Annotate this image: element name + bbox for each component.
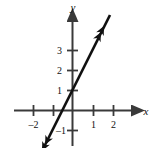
coordinate-plane-svg: –2 1 2 x 3 2 1 –1 y [0, 0, 158, 148]
x-tick-label--2: –2 [28, 119, 39, 130]
x-tick-label-2: 2 [111, 119, 116, 130]
y-axis-label: y [70, 1, 76, 13]
x-tick-label-1: 1 [91, 119, 96, 130]
y-tick-label-2: 2 [57, 65, 62, 76]
y-axis: 3 2 1 –1 y [55, 1, 78, 146]
graph-figure: –2 1 2 x 3 2 1 –1 y [0, 0, 158, 148]
line-arrowhead-lower [38, 135, 53, 148]
y-tick-label-3: 3 [57, 45, 62, 56]
x-axis-label: x [143, 105, 149, 117]
y-tick-label--1: –1 [55, 125, 66, 136]
x-axis: –2 1 2 x [14, 105, 149, 130]
y-tick-label-1: 1 [57, 85, 62, 96]
line-arrowhead-upper [93, 24, 108, 42]
